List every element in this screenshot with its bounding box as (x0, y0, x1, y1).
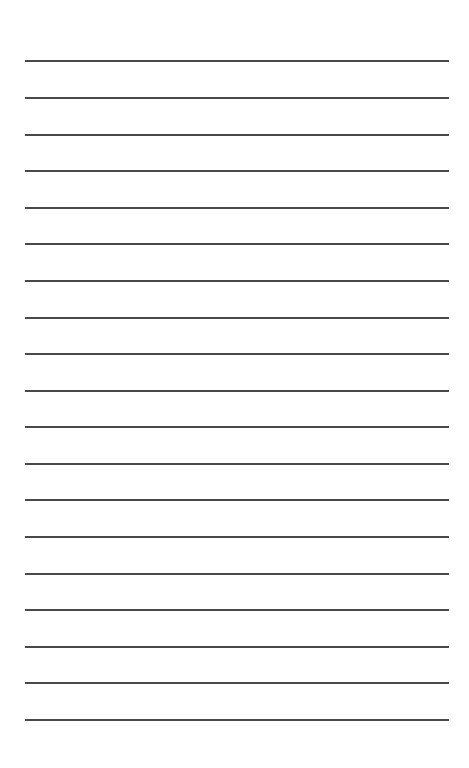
ruled-line (25, 317, 449, 319)
ruled-line (25, 609, 449, 611)
ruled-line (25, 207, 449, 209)
ruled-line (25, 719, 449, 721)
ruled-line (25, 134, 449, 136)
ruled-line (25, 426, 449, 428)
ruled-line (25, 243, 449, 245)
ruled-line (25, 499, 449, 501)
ruled-line (25, 682, 449, 684)
ruled-line (25, 646, 449, 648)
lined-paper-page (0, 0, 469, 768)
ruled-line (25, 573, 449, 575)
ruled-line (25, 536, 449, 538)
ruled-line (25, 353, 449, 355)
ruled-line (25, 60, 449, 62)
ruled-line (25, 97, 449, 99)
ruled-line (25, 390, 449, 392)
ruled-line (25, 280, 449, 282)
ruled-line (25, 170, 449, 172)
ruled-line (25, 463, 449, 465)
